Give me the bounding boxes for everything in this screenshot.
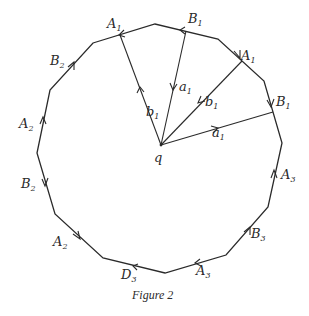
label-A1-top: A1 [106,16,121,33]
figure-2-diagram: A1 B1 A1 B1 A3 B3 A3 D3 A2 B2 A2 B2 b1 a… [0,0,309,316]
label-A1-right: A1 [240,48,255,65]
center-point-q [160,144,163,147]
label-b1-right: b1 [205,94,218,111]
arrow-icon [198,96,205,103]
label-b1-left: b1 [146,104,159,121]
label-A2-upper: A2 [18,116,33,133]
ray-b1-left [120,35,161,145]
label-B2-lower: B2 [20,176,36,193]
label-B3: B3 [250,226,266,243]
label-a1-right: a1 [212,125,225,142]
label-B1-top: B1 [187,11,203,28]
label-A3-bottom: A3 [195,263,210,280]
edge-labels: A1 B1 A1 B1 A3 B3 A3 D3 A2 B2 A2 B2 [18,11,295,284]
figure-caption: Figure 2 [131,288,173,302]
ray-labels: b1 a1 b1 a1 [146,79,225,142]
label-a1-mid: a1 [179,79,192,96]
label-B1-right: B1 [275,94,291,111]
label-B2-upper: B2 [49,53,65,70]
label-D3: D3 [120,267,137,284]
label-A2-lower: A2 [52,234,67,251]
ray-b1-right [161,61,242,145]
center-label-q: q [154,150,162,165]
label-A3-right: A3 [280,167,295,184]
